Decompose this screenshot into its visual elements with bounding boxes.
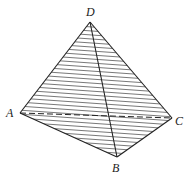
vertex-label-d: D	[85, 5, 95, 19]
tetrahedron-diagram: D A C B	[0, 0, 191, 176]
vertex-label-a: A	[5, 106, 14, 120]
vertex-label-c: C	[175, 114, 184, 128]
vertex-label-b: B	[112, 161, 120, 175]
diagram-svg: D A C B	[0, 0, 191, 176]
